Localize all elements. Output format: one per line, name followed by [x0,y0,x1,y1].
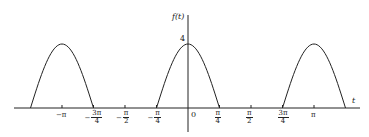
chart-area: f(t) t 4 0 −π−3π4−π2−π4π4π23π4π [0,0,369,137]
y-axis-label: f(t) [172,13,184,21]
x-tick-label: 3π4 [278,110,289,125]
x-tick-label: π [311,111,316,119]
y-tick-4: 4 [180,35,185,43]
x-tick-label: π4 [215,110,222,125]
x-tick-label: −π4 [147,110,160,125]
x-tick-label: −π2 [116,110,129,125]
origin-label: 0 [191,111,196,119]
pulse-curve [283,44,346,108]
x-tick-label: −π [56,111,66,119]
pulse-curve [31,44,94,108]
x-tick-label: π2 [246,110,253,125]
x-axis-label: t [352,97,355,105]
x-tick-label: −3π4 [84,110,102,125]
